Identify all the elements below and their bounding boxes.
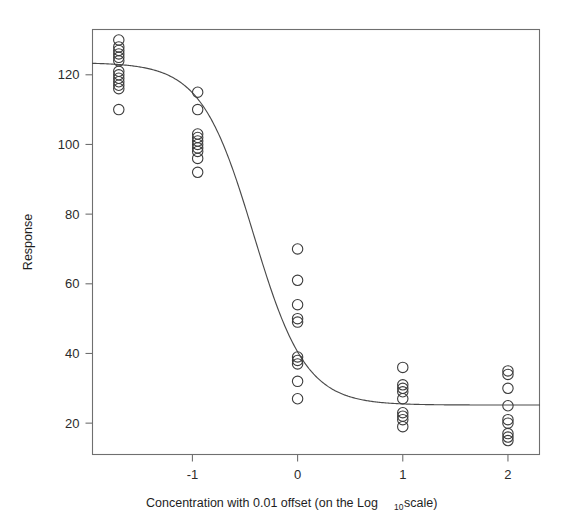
data-point [192, 153, 202, 163]
data-point [292, 300, 302, 310]
y-tick-label: 20 [65, 416, 79, 431]
y-tick-label: 120 [58, 67, 80, 82]
x-axis-ticks: -1012 [187, 455, 512, 482]
fitted-curve [93, 63, 540, 405]
x-tick-label: 2 [504, 467, 511, 482]
scatter-points [114, 35, 514, 446]
y-axis-title-text: Response [21, 214, 35, 270]
data-point [398, 421, 408, 431]
data-point [398, 394, 408, 404]
x-tick-label: 1 [399, 467, 406, 482]
x-axis-title-subscript: 10 [394, 502, 404, 512]
data-point [398, 362, 408, 372]
data-point [292, 244, 302, 254]
data-point [292, 376, 302, 386]
dose-response-figure: 20406080100120 -1012 Response Concentrat… [0, 0, 566, 526]
plot-canvas: 20406080100120 -1012 Response Concentrat… [0, 0, 566, 526]
data-point [503, 383, 513, 393]
y-tick-label: 100 [58, 137, 80, 152]
plot-frame [93, 30, 540, 455]
data-point [114, 104, 124, 114]
y-tick-label: 60 [65, 276, 79, 291]
data-point [292, 394, 302, 404]
x-tick-label: -1 [187, 467, 199, 482]
x-tick-label: 0 [294, 467, 301, 482]
data-point [192, 104, 202, 114]
x-axis-title-main: Concentration with 0.01 offset (on the L… [146, 496, 378, 510]
y-tick-label: 40 [65, 346, 79, 361]
y-axis-title: Response [21, 214, 35, 270]
x-axis-title-tail: scale) [404, 496, 437, 510]
y-tick-label: 80 [65, 207, 79, 222]
data-point [192, 167, 202, 177]
data-point [192, 87, 202, 97]
data-point [503, 401, 513, 411]
x-axis-title: Concentration with 0.01 offset (on the L… [146, 496, 437, 512]
data-point [292, 275, 302, 285]
y-axis-ticks: 20406080100120 [58, 67, 93, 430]
